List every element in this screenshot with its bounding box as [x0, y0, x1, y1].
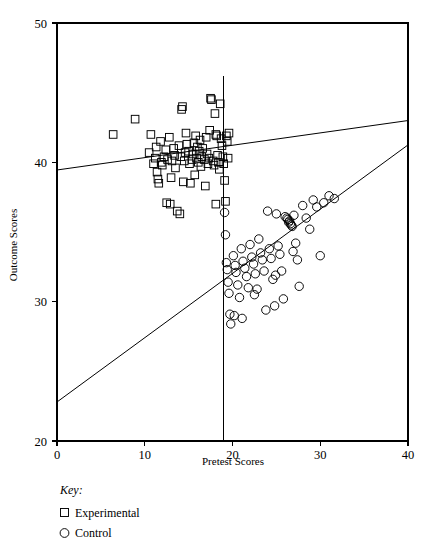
data-point-control [277, 267, 285, 275]
data-point-experimental [166, 133, 174, 141]
data-point-control [260, 267, 268, 275]
data-point-control [224, 278, 232, 286]
legend-title: Key: [59, 483, 83, 497]
data-point-experimental [172, 164, 180, 172]
data-point-experimental [225, 129, 233, 137]
data-point-experimental [180, 178, 188, 186]
data-points-experimental [109, 94, 232, 217]
data-point-control [272, 210, 280, 218]
data-point-experimental [182, 129, 190, 137]
data-point-control [244, 284, 252, 292]
data-point-control [237, 245, 245, 253]
data-point-experimental [212, 200, 220, 208]
data-point-experimental [131, 115, 139, 123]
data-point-control [250, 291, 258, 299]
data-point-experimental [157, 138, 165, 146]
data-point-experimental [187, 179, 195, 187]
data-point-experimental [173, 207, 181, 215]
x-axis-title: Pretest Scores [202, 455, 264, 467]
plot-frame [57, 23, 408, 441]
data-point-experimental [152, 143, 160, 151]
data-point-control [289, 247, 297, 255]
data-point-control [279, 295, 287, 303]
data-point-experimental [222, 198, 230, 206]
data-point-control [227, 320, 235, 328]
data-point-experimental [150, 160, 158, 168]
scatter-plot-figure: 01020304020304050 Pretest Scores Outcome… [0, 0, 430, 559]
data-point-experimental [176, 210, 184, 218]
x-tick-label-40: 40 [402, 448, 415, 462]
data-point-experimental [153, 168, 161, 176]
data-point-control [242, 272, 250, 280]
data-point-control [246, 240, 254, 248]
data-point-control [325, 192, 333, 200]
legend-marker-square-icon [61, 509, 69, 517]
data-points-control [220, 192, 338, 329]
data-point-control [220, 208, 228, 216]
data-point-control [235, 293, 243, 301]
data-point-control [316, 251, 324, 259]
data-point-experimental [221, 177, 229, 185]
data-point-experimental [183, 140, 191, 148]
data-point-experimental [109, 131, 117, 139]
x-tick-label-30: 30 [314, 448, 327, 462]
data-point-experimental [175, 142, 183, 150]
y-axis-title: Outcome Scores [7, 209, 19, 281]
legend-marker-circle-icon [60, 529, 69, 538]
data-point-control [253, 285, 261, 293]
data-point-experimental [202, 182, 210, 190]
data-point-control [267, 254, 275, 262]
data-point-control [295, 282, 303, 290]
data-point-control [293, 256, 301, 264]
y-tick-label-40: 40 [35, 156, 48, 170]
data-point-experimental [167, 174, 175, 182]
legend: Key: Experimental Control [59, 483, 140, 540]
data-point-control [234, 281, 242, 289]
x-tick-label-0: 0 [54, 448, 60, 462]
data-point-control [270, 302, 278, 310]
data-point-experimental [191, 171, 199, 179]
data-point-control [262, 306, 270, 314]
data-point-experimental [147, 131, 155, 139]
data-point-control [291, 239, 299, 247]
legend-label-experimental: Experimental [75, 506, 140, 520]
data-point-control [263, 207, 271, 215]
data-point-control [276, 250, 284, 258]
y-tick-label-50: 50 [35, 17, 48, 31]
data-point-control [251, 270, 259, 278]
x-tick-label-10: 10 [139, 448, 152, 462]
data-point-control [274, 242, 282, 250]
data-point-control [225, 289, 233, 297]
data-point-control [255, 235, 263, 243]
data-point-experimental [211, 110, 219, 118]
data-point-experimental [216, 100, 224, 108]
control-regression [57, 145, 408, 402]
data-point-control [229, 251, 237, 259]
data-point-control [302, 214, 310, 222]
regression-discontinuity-chart: 01020304020304050 Pretest Scores Outcome… [0, 0, 430, 559]
data-point-control [299, 201, 307, 209]
data-point-control [221, 231, 229, 239]
legend-label-control: Control [75, 526, 112, 540]
data-point-control [306, 225, 314, 233]
experimental-regression [57, 121, 408, 170]
data-point-experimental [162, 146, 170, 154]
data-point-control [238, 314, 246, 322]
y-tick-label-30: 30 [35, 295, 48, 309]
y-tick-label-20: 20 [35, 435, 48, 449]
data-point-control [290, 211, 298, 219]
data-point-experimental [170, 145, 178, 153]
